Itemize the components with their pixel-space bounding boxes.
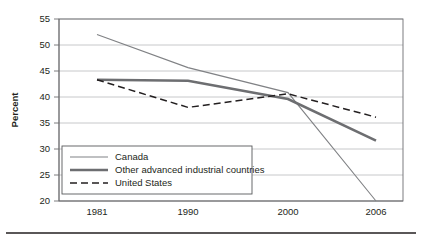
y-tick-label-30: 30: [39, 143, 50, 154]
line-chart: 55 50 45 40 35 30 25 20 Percent 1981 199…: [0, 0, 422, 241]
y-tick-label-55: 55: [39, 13, 50, 24]
y-tick-label-25: 25: [39, 169, 50, 180]
legend-label-united-states: United States: [115, 177, 172, 188]
x-tick-label-1990: 1990: [177, 206, 198, 217]
x-tick-label-2006: 2006: [365, 206, 386, 217]
x-tick-label-1981: 1981: [86, 206, 107, 217]
y-tick-label-20: 20: [39, 195, 50, 206]
legend: Canada Other advanced industrial countri…: [62, 146, 265, 194]
y-tick-label-50: 50: [39, 39, 50, 50]
legend-label-canada: Canada: [115, 151, 149, 162]
chart-background: [0, 0, 422, 241]
y-tick-label-45: 45: [39, 65, 50, 76]
chart-figure: 55 50 45 40 35 30 25 20 Percent 1981 199…: [0, 0, 422, 241]
y-tick-label-35: 35: [39, 117, 50, 128]
x-tick-label-2000: 2000: [277, 206, 298, 217]
y-tick-label-40: 40: [39, 91, 50, 102]
legend-label-other-advanced-industrial-countries: Other advanced industrial countries: [115, 164, 265, 175]
y-axis-title: Percent: [9, 92, 20, 128]
